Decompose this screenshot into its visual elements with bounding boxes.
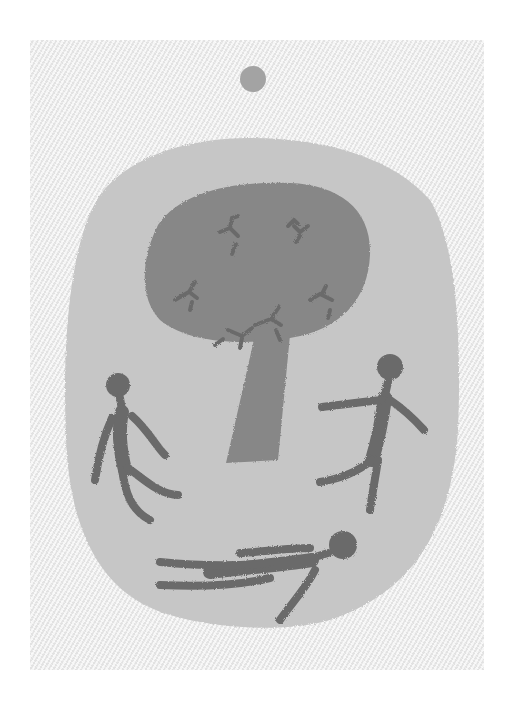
painting — [0, 0, 510, 709]
tree-crown — [145, 183, 370, 342]
sun-dot — [240, 66, 266, 92]
